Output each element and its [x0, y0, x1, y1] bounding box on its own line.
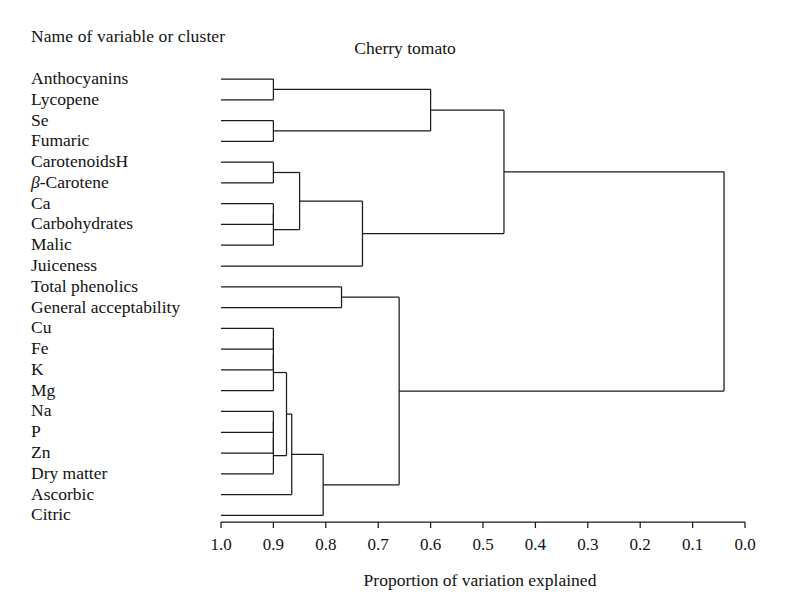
x-tick-label: 0.3: [577, 536, 598, 553]
x-axis-title: Proportion of variation explained: [190, 570, 770, 591]
x-tick-label: 0.2: [630, 536, 651, 553]
x-tick-label: 0.5: [472, 536, 493, 553]
x-tick-label: 0.6: [420, 536, 441, 553]
x-tick-label: 0.4: [525, 536, 546, 553]
x-tick-label: 0.9: [263, 536, 284, 553]
dendrogram-figure: Name of variable or cluster Cherry tomat…: [0, 0, 789, 606]
x-axis-tick-labels: 1.00.90.80.70.60.50.40.30.20.10.0: [0, 0, 789, 606]
x-tick-label: 0.0: [734, 536, 755, 553]
x-tick-label: 0.8: [315, 536, 336, 553]
x-tick-label: 1.0: [210, 536, 231, 553]
x-tick-label: 0.7: [368, 536, 389, 553]
x-tick-label: 0.1: [682, 536, 703, 553]
